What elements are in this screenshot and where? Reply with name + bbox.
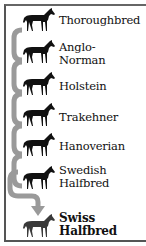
result-label: SwissHalfbred	[59, 212, 117, 238]
horse-icon	[22, 8, 56, 32]
horse-icon	[22, 103, 56, 127]
breed-label: Holstein	[59, 80, 106, 93]
horse-icon	[22, 166, 56, 190]
horse-icon	[22, 133, 56, 157]
breed-label: SwedishHalfbred	[59, 164, 109, 190]
breed-label: Hanoverian	[59, 140, 125, 153]
breed-label: Anglo-Norman	[59, 41, 105, 67]
breed-label: Trakehner	[59, 111, 118, 124]
breed-label: Thoroughbred	[59, 14, 140, 27]
horse-icon	[22, 40, 56, 64]
horse-icon	[22, 214, 56, 238]
horse-icon	[22, 72, 56, 96]
